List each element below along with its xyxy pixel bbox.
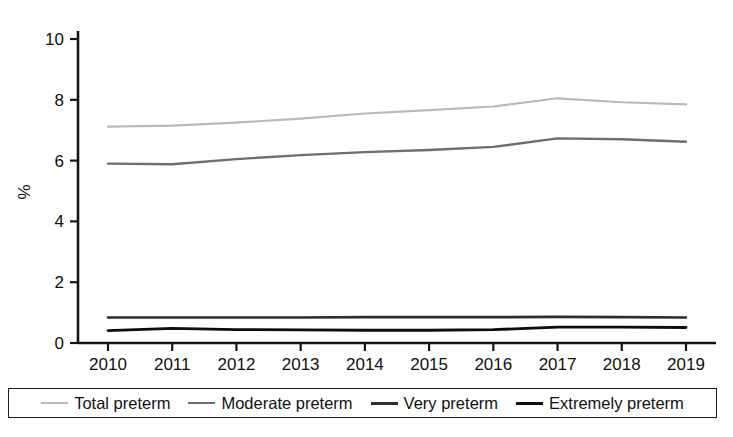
y-tick-label: 2	[55, 273, 64, 292]
line-chart-svg: 0246810 % 201020112012201320142015201620…	[0, 0, 733, 380]
legend-item[interactable]: Very preterm	[362, 395, 507, 412]
legend-line-swatch	[371, 402, 398, 405]
series-line	[108, 98, 686, 126]
x-tick-label: 2013	[282, 355, 320, 374]
x-tick-label: 2017	[539, 355, 577, 374]
legend-line-swatch	[188, 402, 215, 404]
y-tick-label: 4	[55, 212, 64, 231]
x-axis-group: 2010201120122013201420152016201720182019	[78, 343, 716, 374]
chart-screenshot: 0246810 % 201020112012201320142015201620…	[0, 0, 733, 437]
chart-legend: Total pretermModerate pretermVery preter…	[8, 388, 717, 418]
x-tick-label: 2014	[346, 355, 384, 374]
x-tick-label: 2018	[603, 355, 641, 374]
x-tick-label: 2010	[89, 355, 127, 374]
y-tick-label: 6	[55, 152, 64, 171]
y-tick-label: 0	[55, 334, 64, 353]
legend-label: Very preterm	[404, 395, 498, 412]
x-tick-label: 2012	[218, 355, 256, 374]
legend-label: Extremely preterm	[549, 395, 684, 412]
y-axis-title: %	[15, 184, 34, 199]
x-axis-tick-labels: 2010201120122013201420152016201720182019	[89, 355, 705, 374]
legend-label: Moderate preterm	[221, 395, 352, 412]
x-tick-label: 2019	[667, 355, 705, 374]
legend-item[interactable]: Moderate preterm	[179, 395, 361, 412]
series-line	[108, 138, 686, 164]
x-tick-label: 2015	[410, 355, 448, 374]
legend-line-swatch	[41, 402, 68, 404]
y-axis-group: 0246810 %	[15, 30, 78, 353]
legend-item[interactable]: Extremely preterm	[507, 395, 693, 412]
chart-plot-area: 0246810 % 201020112012201320142015201620…	[0, 0, 733, 380]
x-tick-label: 2011	[154, 355, 191, 374]
legend-line-swatch	[516, 402, 543, 405]
data-series-group	[108, 98, 686, 330]
series-line	[108, 327, 686, 330]
y-tick-label: 8	[55, 91, 64, 110]
legend-label: Total preterm	[74, 395, 170, 412]
y-axis-tick-labels: 0246810	[45, 30, 64, 353]
y-tick-label: 10	[45, 30, 64, 49]
series-line	[108, 317, 686, 318]
x-tick-label: 2016	[474, 355, 512, 374]
legend-item[interactable]: Total preterm	[32, 395, 179, 412]
